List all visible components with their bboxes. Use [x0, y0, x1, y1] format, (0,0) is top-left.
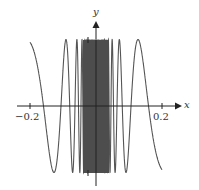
x-axis-arrow-icon	[175, 103, 182, 110]
x-tick-label-pos: 0.2	[153, 111, 169, 122]
x-axis-label: x	[184, 99, 190, 110]
y-axis-label: y	[93, 6, 99, 17]
sin-inverse-x-plot	[0, 0, 199, 190]
y-axis-arrow-icon	[93, 21, 100, 28]
x-tick-label-neg: −0.2	[15, 111, 39, 122]
